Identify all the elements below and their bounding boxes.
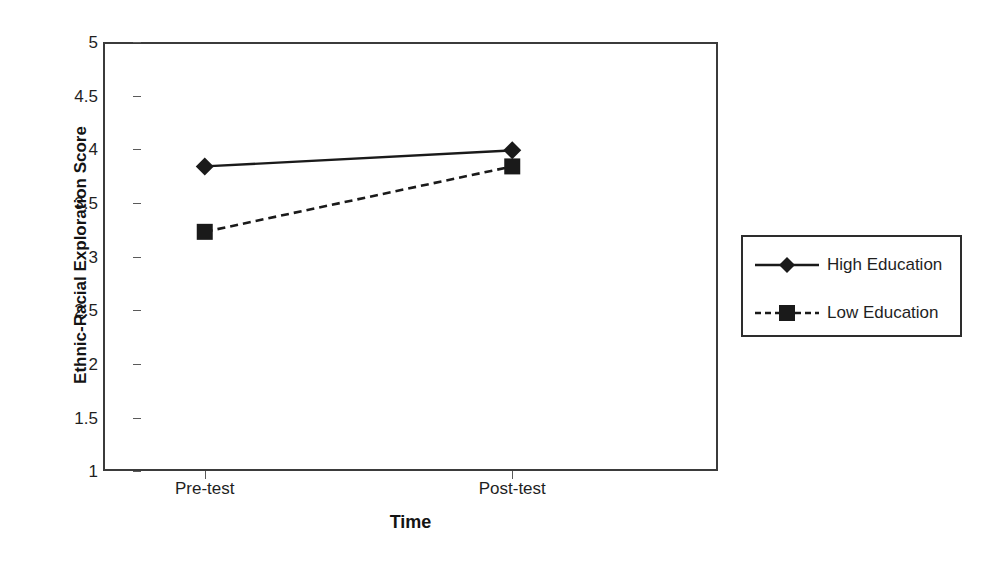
legend: High Education Low Education: [741, 235, 962, 337]
legend-label-low-education: Low Education: [827, 304, 939, 322]
chart-figure: 5 4.5 4 3.5 3 2.5 2 1.5 1 Pre-test Post-…: [0, 0, 988, 568]
legend-entry-high-education: High Education: [753, 253, 942, 277]
plot-area: [103, 42, 718, 471]
y-axis-title: Ethnic-Racial Exploration Score: [71, 40, 91, 470]
y-tick-mark: [133, 310, 141, 311]
solid-line-sample: [753, 254, 821, 276]
y-tick-mark: [133, 96, 141, 97]
x-tick-mark: [205, 471, 206, 479]
x-axis-title: Time: [103, 512, 718, 533]
y-tick-mark: [133, 42, 141, 43]
diamond-icon: [779, 257, 795, 273]
legend-entry-low-education: Low Education: [753, 301, 939, 325]
dashed-line-sample: [753, 302, 821, 324]
x-tick-label-pre-test: Pre-test: [175, 480, 235, 498]
x-tick-label-post-test: Post-test: [479, 480, 546, 498]
y-tick-mark: [133, 257, 141, 258]
square-icon: [779, 305, 795, 321]
y-tick-mark: [133, 418, 141, 419]
y-tick-mark: [133, 471, 141, 472]
y-tick-mark: [133, 364, 141, 365]
y-tick-mark: [133, 203, 141, 204]
legend-label-high-education: High Education: [827, 256, 942, 274]
x-tick-mark: [512, 471, 513, 479]
y-tick-mark: [133, 149, 141, 150]
